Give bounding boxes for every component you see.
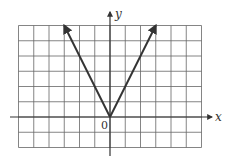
axes: [10, 12, 212, 156]
origin-label: 0: [101, 119, 108, 132]
y-axis-label: y: [114, 7, 122, 21]
graph-canvas: x y 0: [0, 0, 234, 168]
x-axis-label: x: [215, 110, 222, 124]
